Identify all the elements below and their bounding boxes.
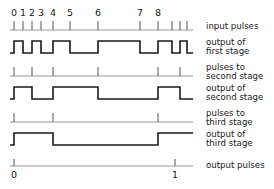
- output-first-stage-waveform: [10, 41, 193, 53]
- pulses-to-third-stage-label: third stage: [206, 117, 253, 127]
- scale-number-7: 7: [137, 7, 143, 18]
- scale-number-3: 3: [38, 7, 44, 18]
- output-pulses-label: output pulses: [206, 160, 265, 170]
- output-number-0: 0: [11, 169, 17, 180]
- timing-diagram: 012345678input pulsesoutput offirst stag…: [0, 0, 274, 189]
- input-pulses-label: input pulses: [206, 21, 259, 31]
- row-output-second-stage: output ofsecond stage: [10, 83, 263, 102]
- output-first-stage-label: first stage: [206, 46, 249, 56]
- scale-number-4: 4: [50, 7, 56, 18]
- scale-number-8: 8: [155, 7, 161, 18]
- row-pulses-to-third-stage: pulses tothird stage: [10, 108, 253, 127]
- pulses-to-second-stage-label: second stage: [206, 71, 263, 81]
- output-third-stage-label: third stage: [206, 138, 253, 148]
- output-number-1: 1: [172, 169, 178, 180]
- row-output-first-stage: output offirst stage: [10, 37, 249, 56]
- output-second-stage-label: second stage: [206, 92, 263, 102]
- row-output-third-stage: output ofthird stage: [10, 129, 253, 148]
- row-output-pulses: output pulses: [10, 159, 265, 170]
- scale-number-5: 5: [67, 7, 73, 18]
- timing-diagram-canvas: 012345678input pulsesoutput offirst stag…: [0, 0, 274, 189]
- scale-number-6: 6: [95, 7, 101, 18]
- output-third-stage-waveform: [10, 133, 193, 145]
- row-pulses-to-second-stage: pulses tosecond stage: [10, 62, 263, 81]
- scale-number-2: 2: [29, 7, 35, 18]
- output-second-stage-waveform: [10, 87, 193, 99]
- scale-number-1: 1: [20, 7, 26, 18]
- scale-number-0: 0: [11, 7, 17, 18]
- row-input-pulses: input pulses: [10, 21, 259, 31]
